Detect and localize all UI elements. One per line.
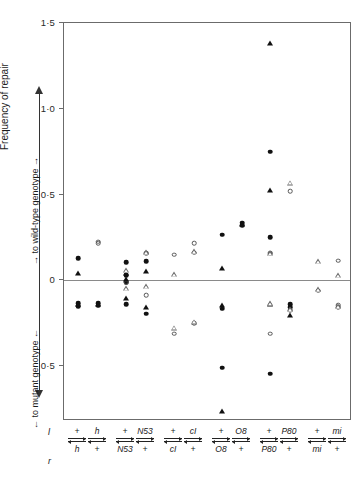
data-point-filled-triangle <box>239 221 245 226</box>
data-point-open-triangle <box>287 307 293 312</box>
figure-root: Frequency of repair → to wild-type genot… <box>0 0 364 478</box>
y-axis-caption-down: ← to mutant genotype ← <box>30 329 40 429</box>
y-axis-tick-label: 1·0 <box>21 102 55 113</box>
data-point-filled-circle <box>268 235 273 240</box>
data-point-filled-circle <box>220 233 225 238</box>
data-point-open-triangle <box>287 180 293 185</box>
data-point-open-circle <box>96 239 101 244</box>
data-point-open-triangle <box>143 250 149 255</box>
data-point-open-triangle <box>267 300 273 305</box>
data-point-open-triangle <box>315 259 321 264</box>
x-axis-genotype-label: mi+ <box>320 426 354 454</box>
data-point-filled-triangle <box>267 40 273 45</box>
x-axis-row-label-r: r <box>48 456 51 466</box>
data-point-filled-triangle <box>123 296 129 301</box>
y-axis-caption-up: → to wild-type genotype → <box>30 157 40 265</box>
data-point-filled-triangle <box>75 270 81 275</box>
equilibrium-arrows-icon <box>184 436 202 444</box>
x-axis-labels: l r +hh++N53N53++cIcI++O8O8++P80P80++mim… <box>0 424 364 474</box>
data-point-open-triangle <box>191 249 197 254</box>
data-point-open-triangle <box>335 304 341 309</box>
data-point-filled-triangle <box>143 268 149 273</box>
data-point-open-circle <box>336 258 341 263</box>
equilibrium-arrows-icon <box>328 436 346 444</box>
data-point-open-triangle <box>267 250 273 255</box>
data-point-open-triangle <box>335 273 341 278</box>
data-point-filled-triangle <box>95 302 101 307</box>
y-axis-title: Frequency of repair <box>0 0 10 150</box>
data-point-filled-triangle <box>219 303 225 308</box>
genotype-numerator: mi <box>320 426 354 436</box>
data-point-open-triangle <box>123 286 129 291</box>
data-point-filled-triangle <box>143 304 149 309</box>
equilibrium-arrows-icon <box>88 436 106 444</box>
data-point-open-triangle <box>315 286 321 291</box>
zero-reference-line <box>64 280 350 281</box>
data-point-filled-circle <box>220 366 225 371</box>
y-axis-caption-up-text: → to wild-type genotype → <box>30 157 40 265</box>
y-axis-caption-down-text: ← to mutant genotype ← <box>30 329 40 429</box>
data-point-filled-triangle <box>219 408 225 413</box>
data-point-open-circle <box>192 241 197 246</box>
data-point-filled-triangle <box>267 188 273 193</box>
data-point-filled-triangle <box>123 277 129 282</box>
data-point-open-circle <box>172 252 177 257</box>
data-point-open-circle <box>172 331 177 336</box>
data-point-open-circle <box>268 331 273 336</box>
y-axis-tick-label: 0·5 <box>21 188 55 199</box>
y-axis-tick-label: 0·5 <box>21 360 55 371</box>
data-point-open-triangle <box>171 272 177 277</box>
data-point-open-triangle <box>143 284 149 289</box>
equilibrium-arrows-icon <box>232 436 250 444</box>
data-point-open-triangle <box>191 319 197 324</box>
y-axis-tick-label: 0 <box>21 274 55 285</box>
data-point-open-circle <box>144 293 149 298</box>
arrow-up-icon <box>35 86 43 94</box>
data-point-filled-circle <box>268 149 273 154</box>
data-point-filled-circle <box>268 372 273 377</box>
equilibrium-arrows-icon <box>280 436 298 444</box>
data-point-open-triangle <box>123 268 129 273</box>
plot-area <box>63 22 351 420</box>
data-point-filled-circle <box>144 259 149 264</box>
data-point-filled-triangle <box>75 302 81 307</box>
data-point-filled-circle <box>124 260 129 265</box>
genotype-denominator: + <box>320 444 354 454</box>
equilibrium-arrows-icon <box>136 436 154 444</box>
x-axis-row-label-l: l <box>48 427 50 437</box>
data-point-open-triangle <box>171 325 177 330</box>
y-axis-title-text: Frequency of repair <box>0 63 10 150</box>
data-point-open-circle <box>288 189 293 194</box>
data-point-filled-circle <box>144 311 149 316</box>
y-axis-tick-label: 1·5 <box>21 17 55 28</box>
data-point-filled-triangle <box>219 266 225 271</box>
data-point-filled-circle <box>124 302 129 307</box>
data-point-filled-triangle <box>287 312 293 317</box>
data-point-filled-circle <box>76 256 81 261</box>
